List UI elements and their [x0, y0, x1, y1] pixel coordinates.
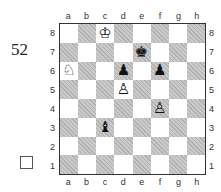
black-pawn-icon[interactable]: ♟ — [153, 63, 166, 78]
square-h8[interactable] — [187, 24, 205, 43]
square-d2[interactable] — [114, 137, 132, 156]
rank-label-8: 8 — [209, 23, 214, 42]
square-a5[interactable] — [60, 80, 78, 99]
square-f5[interactable] — [151, 80, 169, 99]
file-label-g: g — [169, 177, 187, 187]
square-d1[interactable] — [114, 155, 132, 174]
square-c7[interactable] — [96, 43, 114, 62]
square-h7[interactable] — [187, 43, 205, 62]
square-b7[interactable] — [78, 43, 96, 62]
file-label-h: h — [188, 177, 206, 187]
square-a6[interactable]: ♘ — [60, 62, 78, 81]
square-e4[interactable] — [133, 99, 151, 118]
square-c6[interactable] — [96, 62, 114, 81]
rank-label-3: 3 — [50, 118, 55, 137]
square-g3[interactable] — [169, 118, 187, 137]
black-bishop-icon[interactable]: ♝ — [99, 120, 112, 135]
square-f3[interactable] — [151, 118, 169, 137]
square-h3[interactable] — [187, 118, 205, 137]
rank-label-2: 2 — [209, 137, 214, 156]
square-h2[interactable] — [187, 137, 205, 156]
square-b4[interactable] — [78, 99, 96, 118]
file-label-g: g — [169, 11, 187, 21]
square-d7[interactable] — [114, 43, 132, 62]
square-g7[interactable] — [169, 43, 187, 62]
white-pawn-icon[interactable]: ♙ — [117, 82, 130, 97]
square-g5[interactable] — [169, 80, 187, 99]
rank-label-3: 3 — [209, 118, 214, 137]
file-labels-top: abcdefgh — [59, 11, 206, 21]
square-f2[interactable] — [151, 137, 169, 156]
square-f6[interactable]: ♟ — [151, 62, 169, 81]
file-label-e: e — [133, 11, 151, 21]
white-king-icon[interactable]: ♔ — [99, 26, 112, 41]
square-e3[interactable] — [133, 118, 151, 137]
square-a7[interactable] — [60, 43, 78, 62]
square-e1[interactable] — [133, 155, 151, 174]
square-h4[interactable] — [187, 99, 205, 118]
square-c2[interactable] — [96, 137, 114, 156]
square-g4[interactable] — [169, 99, 187, 118]
square-b3[interactable] — [78, 118, 96, 137]
square-e7[interactable]: ♚ — [133, 43, 151, 62]
square-e5[interactable] — [133, 80, 151, 99]
chess-board: ♔♚♘♟♟♙♙♝ — [59, 23, 206, 175]
white-pawn-icon[interactable]: ♙ — [153, 101, 166, 116]
white-knight-icon[interactable]: ♘ — [62, 63, 75, 78]
file-label-c: c — [96, 11, 114, 21]
square-f7[interactable] — [151, 43, 169, 62]
black-king-icon[interactable]: ♚ — [135, 45, 148, 60]
rank-label-6: 6 — [50, 61, 55, 80]
square-a1[interactable] — [60, 155, 78, 174]
rank-label-1: 1 — [50, 156, 55, 175]
square-g1[interactable] — [169, 155, 187, 174]
square-f4[interactable]: ♙ — [151, 99, 169, 118]
square-c8[interactable]: ♔ — [96, 24, 114, 43]
file-label-f: f — [151, 11, 169, 21]
rank-label-2: 2 — [50, 137, 55, 156]
square-d5[interactable]: ♙ — [114, 80, 132, 99]
rank-label-7: 7 — [50, 42, 55, 61]
square-a2[interactable] — [60, 137, 78, 156]
rank-label-4: 4 — [209, 99, 214, 118]
file-label-f: f — [151, 177, 169, 187]
rank-label-8: 8 — [50, 23, 55, 42]
square-a3[interactable] — [60, 118, 78, 137]
rank-label-6: 6 — [209, 61, 214, 80]
rank-label-1: 1 — [209, 156, 214, 175]
square-d3[interactable] — [114, 118, 132, 137]
square-d8[interactable] — [114, 24, 132, 43]
square-b5[interactable] — [78, 80, 96, 99]
square-d6[interactable]: ♟ — [114, 62, 132, 81]
rank-label-4: 4 — [50, 99, 55, 118]
square-e2[interactable] — [133, 137, 151, 156]
black-pawn-icon[interactable]: ♟ — [117, 63, 130, 78]
square-b6[interactable] — [78, 62, 96, 81]
square-h5[interactable] — [187, 80, 205, 99]
rank-label-5: 5 — [209, 80, 214, 99]
square-e6[interactable] — [133, 62, 151, 81]
file-label-a: a — [59, 11, 77, 21]
file-label-d: d — [114, 177, 132, 187]
square-g2[interactable] — [169, 137, 187, 156]
file-label-c: c — [96, 177, 114, 187]
square-c3[interactable]: ♝ — [96, 118, 114, 137]
file-label-a: a — [59, 177, 77, 187]
square-g6[interactable] — [169, 62, 187, 81]
square-h6[interactable] — [187, 62, 205, 81]
square-b2[interactable] — [78, 137, 96, 156]
square-c4[interactable] — [96, 99, 114, 118]
square-b1[interactable] — [78, 155, 96, 174]
square-f1[interactable] — [151, 155, 169, 174]
square-d4[interactable] — [114, 99, 132, 118]
square-g8[interactable] — [169, 24, 187, 43]
square-e8[interactable] — [133, 24, 151, 43]
square-a8[interactable] — [60, 24, 78, 43]
square-f8[interactable] — [151, 24, 169, 43]
square-a4[interactable] — [60, 99, 78, 118]
square-c1[interactable] — [96, 155, 114, 174]
square-c5[interactable] — [96, 80, 114, 99]
solved-checkbox[interactable] — [20, 156, 33, 169]
square-b8[interactable] — [78, 24, 96, 43]
square-h1[interactable] — [187, 155, 205, 174]
